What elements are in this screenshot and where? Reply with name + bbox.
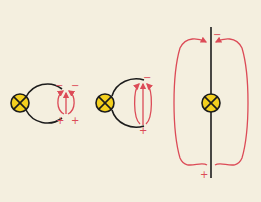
diagram-canvas: − − + + − + − + [0, 0, 261, 202]
dipole-field-diagram: − − + + − + − + [0, 0, 261, 202]
panel-medium-gap: − + [96, 72, 151, 136]
sign-plus: + [200, 169, 208, 180]
sign-minus: − [143, 72, 151, 83]
sign-plus: + [56, 115, 64, 126]
field-lines [58, 91, 74, 114]
sign-plus: + [139, 125, 147, 136]
wire-loop [112, 79, 144, 96]
bulb-icon [202, 94, 220, 112]
sign-minus: − [213, 29, 221, 40]
sign-minus: − [55, 80, 63, 91]
bulb-icon [96, 94, 114, 112]
sign-minus: − [71, 80, 79, 91]
sign-plus: + [71, 115, 79, 126]
bulb-icon [11, 94, 29, 112]
field-lines [135, 84, 152, 125]
panel-small-gap: − − + + [11, 80, 79, 126]
panel-straight-antenna: − + [174, 27, 248, 180]
